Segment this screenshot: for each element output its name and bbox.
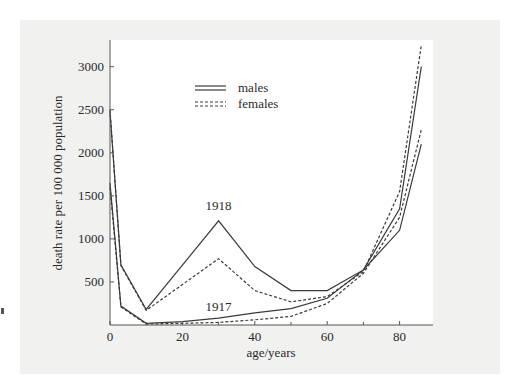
y-tick-label: 1000 bbox=[78, 231, 104, 246]
annotation-1918: 1918 bbox=[206, 198, 232, 213]
x-tick-label: 60 bbox=[321, 329, 334, 344]
annotation-1917: 1917 bbox=[206, 299, 233, 314]
legend-label-females: females bbox=[238, 96, 278, 111]
x-tick-label: 0 bbox=[107, 329, 114, 344]
y-tick-label: 2000 bbox=[78, 145, 104, 160]
line-chart: 02040608050010001500200025003000 malesfe… bbox=[0, 0, 525, 388]
plot-area bbox=[110, 40, 433, 325]
y-tick-label: 1500 bbox=[78, 188, 104, 203]
x-tick-label: 20 bbox=[176, 329, 189, 344]
y-axis-title: death rate per 100 000 population bbox=[50, 95, 65, 271]
y-tick-label: 3000 bbox=[78, 59, 104, 74]
legend-label-males: males bbox=[238, 80, 268, 95]
x-tick-label: 40 bbox=[248, 329, 261, 344]
y-tick-label: 2500 bbox=[78, 102, 104, 117]
x-axis-title: age/years bbox=[246, 345, 295, 360]
y-tick-label: 500 bbox=[85, 274, 105, 289]
x-tick-label: 80 bbox=[393, 329, 406, 344]
